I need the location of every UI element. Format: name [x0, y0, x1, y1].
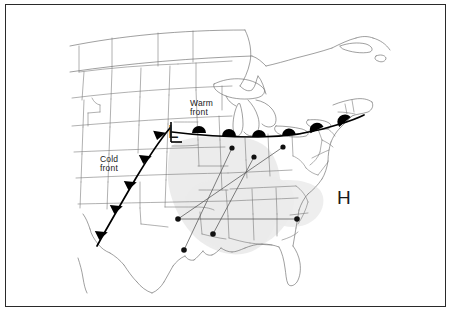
- station-dot: [175, 216, 181, 222]
- warm-front-bump: [192, 126, 206, 133]
- cold-front-label: Coldfront: [100, 155, 118, 173]
- warm-front-bump: [222, 129, 236, 136]
- station-dot: [210, 231, 216, 237]
- high-pressure-label: H: [337, 188, 351, 208]
- cold-front-label-line2: front: [100, 163, 118, 173]
- warm-front-label-line2: front: [190, 107, 208, 117]
- weather-map-figure: Warmfront Coldfront L H: [0, 0, 453, 314]
- warm-front-bump: [309, 122, 325, 134]
- low-pressure-label: L: [168, 122, 179, 142]
- station-dot: [251, 154, 256, 159]
- cold-front: [93, 128, 170, 246]
- station-dot: [229, 145, 234, 150]
- station-dot: [294, 216, 300, 222]
- weather-map-canvas: [0, 0, 453, 314]
- warm-front-symbols: [192, 113, 353, 137]
- station-dot: [181, 247, 187, 253]
- station-dot: [280, 144, 285, 149]
- warm-front-bump: [282, 128, 296, 136]
- warm-front-bump: [252, 130, 266, 137]
- cold-front-symbols: [93, 130, 166, 241]
- warm-front-label: Warmfront: [190, 99, 213, 117]
